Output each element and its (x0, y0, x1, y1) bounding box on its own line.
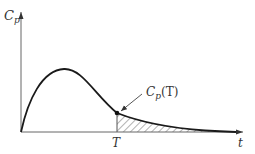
cp-at-T-point (115, 111, 120, 116)
y-axis-label: Cp (4, 8, 20, 25)
cp-at-T-label: Cp(T) (146, 85, 178, 101)
x-axis-label: t (238, 136, 243, 150)
T-label: T (112, 136, 121, 150)
shaded-area-after-T (117, 113, 236, 132)
cp-at-T-pointer-arrow (121, 94, 142, 111)
diagram-canvas: Cp t T Cp(T) (0, 0, 255, 154)
